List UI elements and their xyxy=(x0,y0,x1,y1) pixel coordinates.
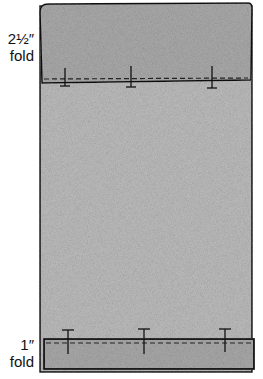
top-fold-label: 2½″ fold xyxy=(0,30,34,64)
bottom-fold-measure: 1″ xyxy=(0,336,34,353)
top-fold-measure: 2½″ xyxy=(0,30,34,47)
bottom-fold-word: fold xyxy=(0,353,34,370)
top-fold-flap xyxy=(40,3,252,83)
bottom-fold-label: 1″ fold xyxy=(0,336,34,370)
top-fold-word: fold xyxy=(0,47,34,64)
fabric-diagram xyxy=(0,0,263,379)
